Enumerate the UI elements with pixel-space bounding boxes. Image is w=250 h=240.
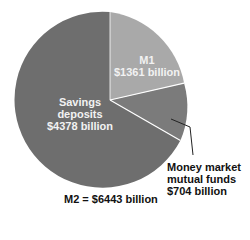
total-label: M2 = $6443 billion: [64, 193, 164, 205]
label-money-market: Money market mutual funds $704 billion: [167, 161, 250, 197]
label-m1: M1 $1361 billion: [110, 54, 184, 78]
label-savings-deposits: Savings deposits $4378 billion: [40, 96, 120, 132]
